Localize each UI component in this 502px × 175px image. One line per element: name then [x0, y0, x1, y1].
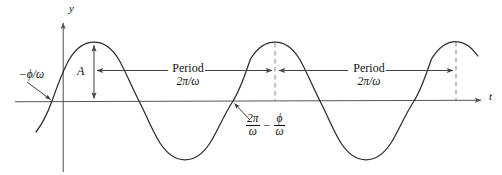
period-right-name: Period	[347, 62, 391, 75]
fraction-numerator-two-pi: 2π	[246, 113, 260, 125]
minus-operator: −	[263, 119, 272, 131]
phase-shift-pointer	[27, 82, 51, 100]
fraction-two-pi-over-omega: 2π ω	[246, 113, 260, 137]
period-right-label: Period 2π/ω	[347, 62, 391, 87]
fraction-numerator-phi: ϕ	[276, 113, 284, 125]
period-right-value: 2π/ω	[347, 75, 391, 87]
phase-shift-label: −ϕ/ω	[19, 68, 44, 80]
t-axis-label: t	[489, 91, 492, 103]
figure-canvas	[0, 0, 502, 175]
amplitude-label: A	[77, 65, 84, 78]
fraction-denominator-omega: ω	[248, 126, 258, 138]
period-left-name: Period	[166, 62, 210, 75]
period-left-label: Period 2π/ω	[166, 62, 210, 87]
fraction-phi-over-omega: ϕ ω	[274, 113, 285, 137]
fraction-denominator-omega: ω	[274, 126, 284, 138]
t-axis	[15, 100, 481, 102]
sine-wave-figure: y t A −ϕ/ω Period 2π/ω Period 2π/ω 2π ω …	[0, 0, 502, 175]
y-axis-label: y	[69, 3, 74, 15]
zero-crossing-expression: 2π ω − ϕ ω	[246, 113, 285, 137]
period-left-value: 2π/ω	[166, 75, 210, 87]
